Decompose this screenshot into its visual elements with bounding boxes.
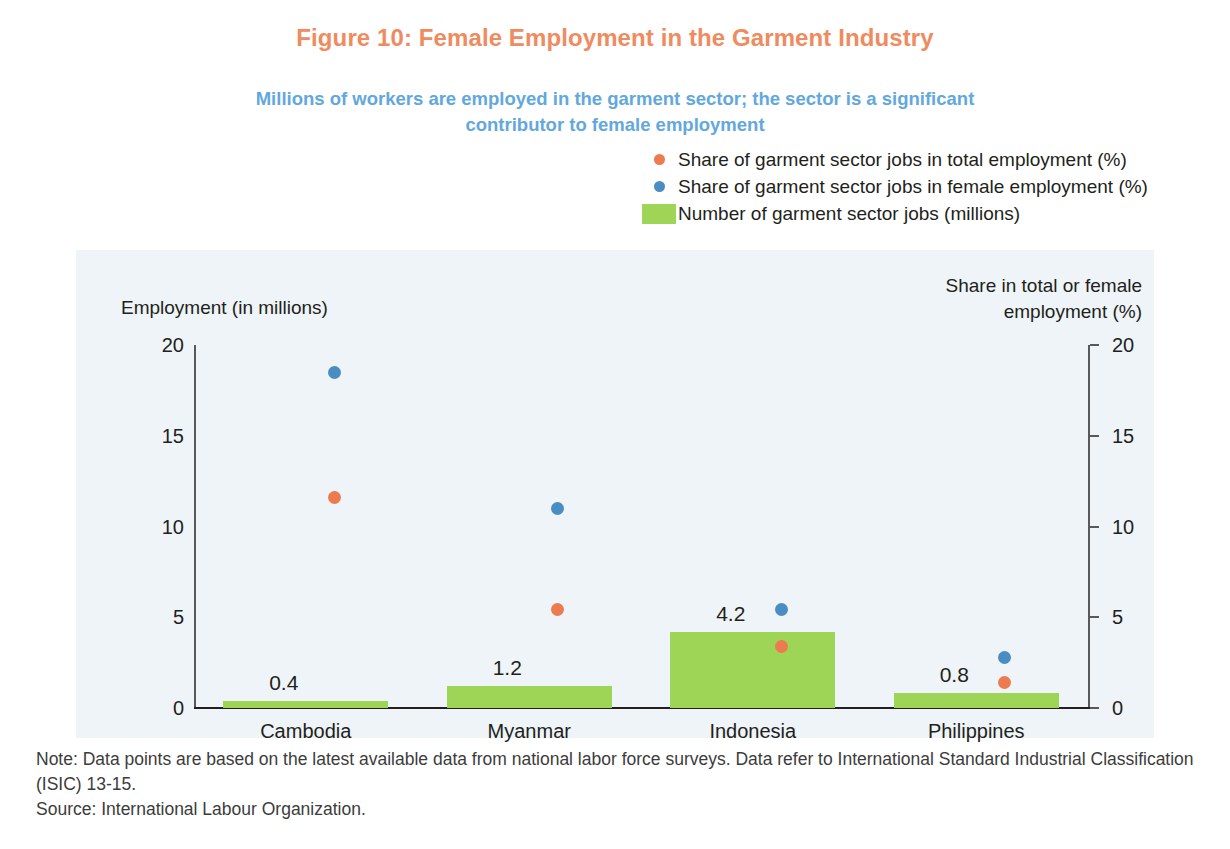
- right-axis-tick-mark: [1090, 526, 1099, 528]
- right-axis-title-line1: Share in total or female: [946, 275, 1142, 296]
- left-axis-tick-label: 15: [162, 424, 184, 447]
- data-point-marker: [328, 491, 341, 504]
- legend-item-female-employment-share: Share of garment sector jobs in female e…: [640, 173, 1200, 200]
- data-point-marker: [998, 651, 1011, 664]
- category-label-myanmar: Myanmar: [488, 720, 571, 743]
- bar-philippines: [894, 693, 1059, 708]
- left-axis-tick-label: 5: [173, 606, 184, 629]
- left-axis-tick-label: 0: [173, 697, 184, 720]
- figure-subtitle: Millions of workers are employed in the …: [215, 86, 1015, 138]
- left-axis-ticks: 20151050: [144, 345, 184, 708]
- bar-value-label: 0.4: [269, 671, 298, 695]
- category-label-indonesia: Indonesia: [709, 720, 796, 743]
- right-axis-title: Share in total or female employment (%): [946, 273, 1142, 325]
- bar-indonesia: [670, 632, 835, 708]
- legend-label-total-employment-share: Share of garment sector jobs in total em…: [678, 149, 1127, 171]
- right-axis-tick-mark: [1090, 344, 1099, 346]
- legend-label-female-employment-share: Share of garment sector jobs in female e…: [678, 176, 1148, 198]
- left-axis-title: Employment (in millions): [121, 297, 328, 319]
- bar-myanmar: [447, 686, 612, 708]
- figure-title: Figure 10: Female Employment in the Garm…: [0, 24, 1230, 52]
- right-axis-title-line2: employment (%): [1004, 301, 1142, 322]
- right-axis-tick-label: 15: [1112, 424, 1134, 447]
- orange-dot-marker-icon: [640, 154, 678, 165]
- right-axis-tick-mark: [1090, 435, 1099, 437]
- data-point-marker: [551, 603, 564, 616]
- blue-dot-marker-icon: [640, 181, 678, 192]
- legend-item-total-employment-share: Share of garment sector jobs in total em…: [640, 146, 1200, 173]
- bar-value-label: 4.2: [716, 602, 745, 626]
- legend-item-garment-jobs: Number of garment sector jobs (millions): [640, 200, 1200, 227]
- chart-legend: Share of garment sector jobs in total em…: [640, 146, 1200, 227]
- right-axis-tick-label: 20: [1112, 334, 1134, 357]
- category-label-philippines: Philippines: [928, 720, 1025, 743]
- plot-panel: Employment (in millions) Share in total …: [76, 250, 1154, 738]
- data-point-marker: [775, 640, 788, 653]
- bar-value-label: 1.2: [493, 656, 522, 680]
- right-axis-tick-mark: [1090, 616, 1099, 618]
- left-axis-tick-label: 10: [162, 515, 184, 538]
- footnote-source: Source: International Labour Organizatio…: [36, 797, 1206, 822]
- plot-area: 0.4Cambodia1.2Myanmar4.2Indonesia0.8Phil…: [194, 345, 1088, 708]
- right-axis-tick-label: 0: [1112, 697, 1123, 720]
- right-axis-tick-label: 10: [1112, 515, 1134, 538]
- green-square-swatch-icon: [640, 204, 678, 224]
- figure-container: Figure 10: Female Employment in the Garm…: [0, 0, 1230, 849]
- bar-value-label: 0.8: [940, 663, 969, 687]
- data-point-marker: [551, 502, 564, 515]
- figure-footnote: Note: Data points are based on the lates…: [36, 747, 1206, 822]
- right-axis-ticks: 20151050: [1090, 345, 1180, 708]
- legend-label-garment-jobs: Number of garment sector jobs (millions): [678, 203, 1020, 225]
- data-point-marker: [775, 603, 788, 616]
- footnote-note: Note: Data points are based on the lates…: [36, 747, 1206, 797]
- right-axis-tick-label: 5: [1112, 606, 1123, 629]
- data-point-marker: [998, 676, 1011, 689]
- right-axis-tick-mark: [1090, 707, 1099, 709]
- data-point-marker: [328, 366, 341, 379]
- bar-cambodia: [223, 701, 388, 708]
- category-label-cambodia: Cambodia: [260, 720, 351, 743]
- left-axis-tick-label: 20: [162, 334, 184, 357]
